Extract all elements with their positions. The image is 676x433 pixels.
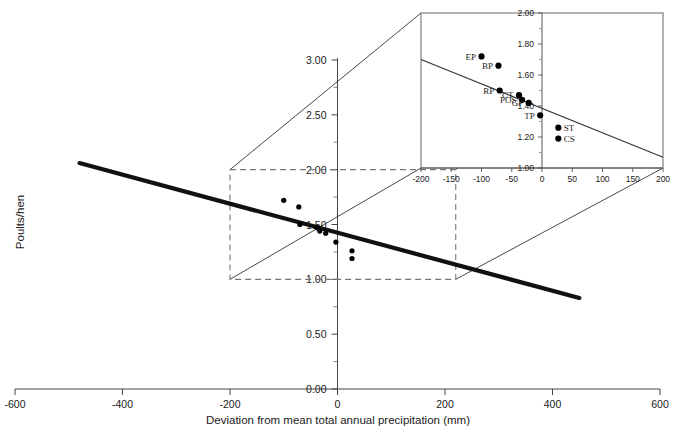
main-data-point xyxy=(349,256,354,261)
inset-x-tick-label: 0 xyxy=(540,174,545,184)
main-x-tick-label: 200 xyxy=(436,398,454,410)
main-y-tick-label: 3.00 xyxy=(306,54,327,66)
main-y-tick-label: 0.00 xyxy=(306,383,327,395)
main-x-tick-label: -400 xyxy=(112,398,133,410)
inset-x-tick-label: 100 xyxy=(595,174,609,184)
figure-root: -600-400-2000200400600 0.000.501.001.502… xyxy=(0,0,676,433)
inset-data-point xyxy=(555,135,561,141)
inset-point-label: BP xyxy=(482,61,493,71)
main-y-tick-label: 0.50 xyxy=(306,328,327,340)
main-data-point xyxy=(297,222,302,227)
inset-y-tick-label: 1.20 xyxy=(517,132,534,142)
inset-panel: -200-150-100-50050100150200 1.001.201.40… xyxy=(412,8,670,184)
main-x-tick-label: -600 xyxy=(4,398,25,410)
inset-point-label: RP xyxy=(483,86,494,96)
x-axis-title: Deviation from mean total annual precipi… xyxy=(206,414,470,426)
inset-x-tick-label: -50 xyxy=(506,174,519,184)
inset-x-tick-label: 150 xyxy=(626,174,640,184)
inset-data-point xyxy=(555,125,561,131)
main-data-point xyxy=(296,204,301,209)
inset-data-point xyxy=(478,53,484,59)
main-data-point xyxy=(323,231,328,236)
main-x-tick-label: 400 xyxy=(544,398,562,410)
main-x-tick-label: 600 xyxy=(651,398,669,410)
y-axis-title: Poults/hen xyxy=(14,195,26,249)
inset-x-tick-label: 200 xyxy=(656,174,670,184)
inset-point-label: CS xyxy=(564,134,575,144)
inset-y-tick-label: 2.00 xyxy=(517,8,534,18)
inset-y-tick-label: 1.60 xyxy=(517,70,534,80)
main-data-point xyxy=(333,239,338,244)
inset-x-tick-label: -200 xyxy=(412,174,429,184)
inset-point-label: ST xyxy=(564,123,575,133)
inset-point-label: TP xyxy=(524,111,535,121)
main-y-tick-label: 2.50 xyxy=(306,109,327,121)
inset-y-tick-label: 1.00 xyxy=(517,163,534,173)
main-x-tick-label: 0 xyxy=(335,398,341,410)
main-data-point xyxy=(349,248,354,253)
inset-y-tick-label: 1.80 xyxy=(517,39,534,49)
inset-point-label: EP xyxy=(465,52,476,62)
main-x-tick-label: -200 xyxy=(219,398,240,410)
inset-data-point xyxy=(537,112,543,118)
inset-point-label: GP xyxy=(512,98,524,108)
inset-x-tick-label: -100 xyxy=(473,174,490,184)
inset-data-point xyxy=(495,63,501,69)
main-data-point xyxy=(317,228,322,233)
inset-x-tick-label: -150 xyxy=(443,174,460,184)
main-data-point xyxy=(281,198,286,203)
inset-x-tick-label: 50 xyxy=(568,174,578,184)
inset-data-point xyxy=(526,100,532,106)
chart-canvas: -600-400-2000200400600 0.000.501.001.502… xyxy=(0,0,676,433)
